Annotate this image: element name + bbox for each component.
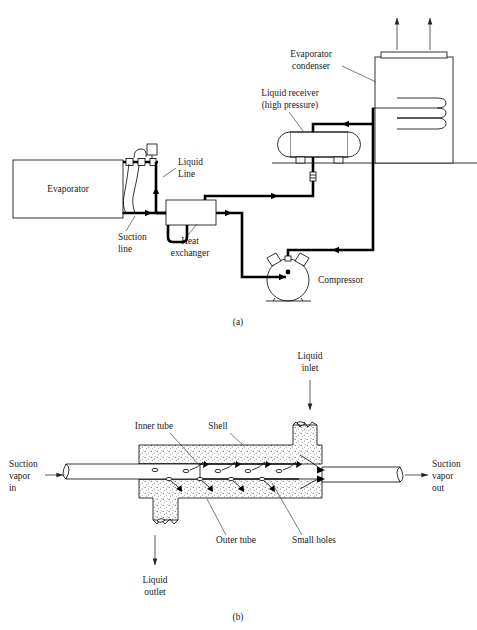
evaporator-condenser-label-line1: Evaporator <box>290 49 333 59</box>
panel-b-caption: (b) <box>233 612 244 623</box>
suction-vapor-out-label-2: vapor <box>432 471 454 481</box>
compressor-label: Compressor <box>318 275 364 285</box>
hole-ellipse <box>228 477 234 480</box>
suction-vapor-out-label-3: out <box>432 483 444 493</box>
liquid-line-label-1: Liquid <box>178 157 203 167</box>
hole-ellipse <box>197 477 203 480</box>
compressor-discharge-port <box>285 256 291 261</box>
suction-vapor-in-label-1: Suction <box>9 459 38 469</box>
figure-canvas: Evaporator condenser Liquid receiver (hi… <box>0 0 477 630</box>
hole-ellipse <box>166 477 172 480</box>
exit-tube-body <box>322 467 400 482</box>
inner-tube-label: Inner tube <box>135 421 173 431</box>
liquid-outlet-label-1: Liquid <box>143 575 168 585</box>
hole-ellipse <box>245 469 251 472</box>
evaporator-condenser-label-line2: condenser <box>292 61 331 71</box>
figure-root: Evaporator condenser Liquid receiver (hi… <box>0 0 477 630</box>
evaporator-label: Evaporator <box>47 184 90 194</box>
suction-vapor-out-label-1: Suction <box>432 459 461 469</box>
suction-line-label-2: line <box>118 244 132 254</box>
suction-line-label-1: Suction <box>118 232 147 242</box>
suction-vapor-in-label-2: vapor <box>9 471 31 481</box>
suction-vapor-in-label-3: in <box>9 483 17 493</box>
evaporator: Evaporator <box>13 160 123 218</box>
hole-upper-1 <box>152 468 158 471</box>
outer-tube-label: Outer tube <box>216 535 256 545</box>
liquid-outlet-label-2: outlet <box>144 587 166 597</box>
hole-ellipse <box>183 469 189 472</box>
hole-ellipse <box>259 477 265 480</box>
compressor-shaft <box>286 270 291 275</box>
condenser-top-cap <box>381 52 447 58</box>
condenser-body <box>375 57 453 163</box>
filter-drier <box>310 172 316 181</box>
receiver-foot-right <box>334 157 343 163</box>
hole-ellipse <box>215 469 221 472</box>
liquid-inlet-label-1: Liquid <box>298 351 323 361</box>
receiver-foot-left <box>296 157 305 163</box>
liquid-receiver-label-line1: Liquid receiver <box>261 88 319 98</box>
heat-exchanger-body <box>166 200 216 225</box>
receiver-shell <box>290 132 348 157</box>
hole-ellipse <box>152 468 158 471</box>
hole-ellipse <box>276 469 282 472</box>
inner-tube-left-section <box>66 464 200 479</box>
liquid-line-label-2: Line <box>178 169 195 179</box>
shell-label: Shell <box>208 421 228 431</box>
valve-body-2 <box>138 159 145 166</box>
valve-body-1 <box>126 159 133 166</box>
panel-a-caption: (a) <box>233 317 243 328</box>
thermostatic-element <box>147 144 157 155</box>
liquid-receiver-label-line2: (high pressure) <box>262 100 319 111</box>
small-holes-label: Small holes <box>292 535 336 545</box>
liquid-inlet-label-2: inlet <box>302 363 319 373</box>
heat-exchanger-label-line2: exchanger <box>171 248 210 258</box>
